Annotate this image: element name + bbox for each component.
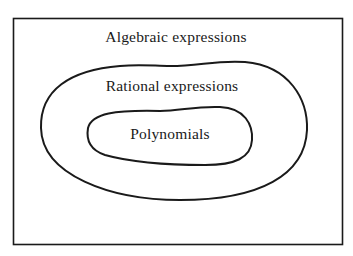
rational-expressions-label: Rational expressions	[106, 77, 239, 95]
algebraic-expressions-label: Algebraic expressions	[105, 28, 247, 46]
polynomials-label: Polynomials	[130, 125, 210, 143]
